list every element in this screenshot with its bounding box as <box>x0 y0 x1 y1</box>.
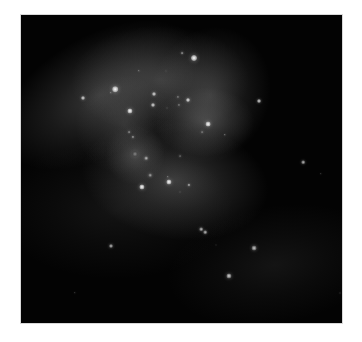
nebula-glow <box>21 140 235 280</box>
star <box>179 191 181 193</box>
star <box>148 173 152 177</box>
star <box>181 52 184 55</box>
star <box>215 244 217 246</box>
star <box>128 131 131 134</box>
nebula-glow <box>21 15 225 202</box>
nebula-glow <box>75 75 175 175</box>
nebula-glow <box>156 187 342 323</box>
star <box>301 160 305 164</box>
star <box>203 230 207 234</box>
star <box>165 70 167 72</box>
star <box>199 227 203 231</box>
star <box>109 244 113 248</box>
star <box>201 131 204 134</box>
star <box>110 92 112 94</box>
star <box>206 122 211 127</box>
star <box>166 107 168 109</box>
star <box>320 173 322 175</box>
star <box>112 86 118 92</box>
star <box>179 155 182 158</box>
star <box>131 135 134 138</box>
star <box>139 184 144 189</box>
star <box>151 103 155 107</box>
star <box>138 70 140 72</box>
star <box>81 96 85 100</box>
star <box>177 103 180 106</box>
star <box>339 292 341 294</box>
star <box>186 98 190 102</box>
star <box>152 92 156 96</box>
star <box>132 151 138 157</box>
star <box>127 108 132 113</box>
star <box>176 95 179 98</box>
star <box>224 134 226 136</box>
galaxy-image <box>21 15 342 323</box>
nebula-glow <box>71 104 279 255</box>
star <box>226 273 231 278</box>
nebula-glow <box>130 15 291 181</box>
star <box>252 246 257 251</box>
star <box>74 292 76 294</box>
nebula-glow <box>70 25 250 135</box>
star <box>144 156 148 160</box>
star <box>166 179 171 184</box>
star <box>191 55 197 61</box>
star <box>167 176 169 178</box>
star <box>187 183 190 186</box>
image-frame <box>0 0 362 342</box>
star <box>257 99 261 103</box>
